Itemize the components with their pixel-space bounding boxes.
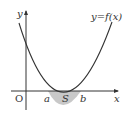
curve-label: y=f(x)	[90, 11, 122, 22]
y-axis-arrow-icon	[24, 10, 28, 15]
origin-label: O	[15, 93, 23, 104]
y-axis-label: y	[16, 8, 23, 19]
root-b-label: b	[80, 93, 86, 104]
parabola-diagram: y y=f(x) O a S b x	[0, 0, 126, 115]
parabola-curve	[19, 22, 112, 92]
x-axis-label: x	[114, 93, 120, 104]
area-s-label: S	[62, 93, 69, 104]
root-a-label: a	[44, 93, 50, 104]
